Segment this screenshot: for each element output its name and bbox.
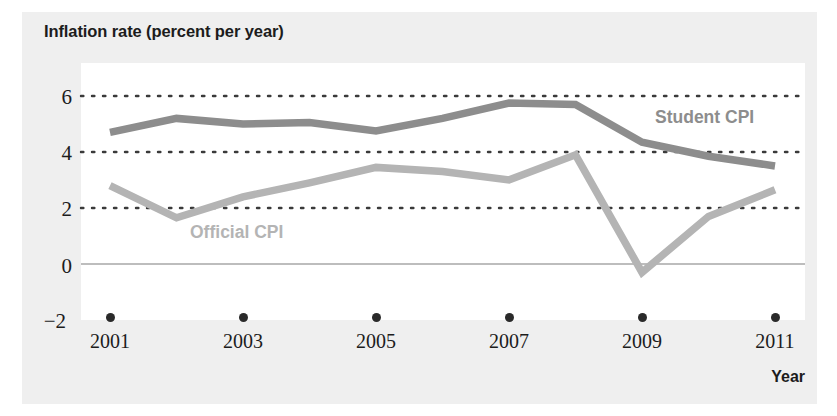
chart-svg <box>0 0 837 416</box>
line-student-cpi <box>110 103 775 166</box>
data-series <box>110 103 775 272</box>
inflation-rate-line-chart: Inflation rate (percent per year) 6 4 2 … <box>0 0 837 416</box>
line-official-cpi <box>110 155 775 273</box>
